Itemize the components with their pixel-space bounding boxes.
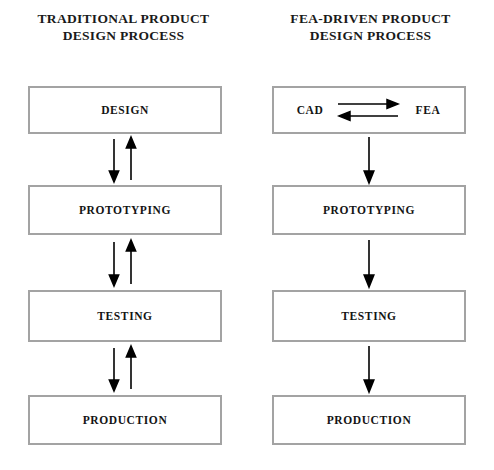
process-box-prototyping: PROTOTYPING [272, 185, 466, 235]
process-box-design: DESIGN [28, 86, 222, 134]
process-box-production: PRODUCTION [28, 395, 222, 445]
arrow-up-head [126, 137, 135, 148]
arrow-right-head [387, 100, 398, 109]
connector-prototyping-testing [247, 235, 494, 290]
connector-design-prototyping [0, 134, 247, 185]
cad-label: CAD [284, 104, 336, 116]
process-box-production: PRODUCTION [272, 395, 466, 445]
connector-cadfea-prototyping [247, 134, 494, 185]
connector-testing-production [247, 342, 494, 395]
cad-fea-row: CAD FEA [274, 88, 464, 132]
arrow-down-head [364, 171, 374, 183]
arrow-up-head [126, 240, 135, 251]
process-box-testing: TESTING [272, 290, 466, 342]
process-box-label: PRODUCTION [83, 414, 168, 426]
process-box-label: PROTOTYPING [323, 204, 415, 216]
arrow-left-head [339, 112, 350, 121]
arrow-up-head [126, 346, 135, 357]
column-fea-driven-process: FEA-DRIVEN PRODUCT DESIGN PROCESS CAD FE… [247, 0, 494, 470]
arrow-down-head [109, 380, 118, 391]
arrow-down-head [109, 275, 118, 286]
cad-fea-exchange-arrows [336, 97, 402, 123]
column-title-fea-driven: FEA-DRIVEN PRODUCT DESIGN PROCESS [247, 10, 494, 44]
connector-testing-production [0, 342, 247, 395]
process-box-label: DESIGN [101, 104, 149, 116]
process-box-label: PROTOTYPING [79, 204, 171, 216]
column-traditional-process: TRADITIONAL PRODUCT DESIGN PROCESS DESIG… [0, 0, 247, 470]
arrow-down-head [364, 275, 374, 287]
arrow-down-head [364, 380, 374, 392]
process-box-testing: TESTING [28, 290, 222, 342]
fea-label: FEA [402, 104, 454, 116]
flowchart-diagram: TRADITIONAL PRODUCT DESIGN PROCESS DESIG… [0, 0, 494, 470]
connector-prototyping-testing [0, 235, 247, 290]
process-box-label: TESTING [341, 310, 396, 322]
column-title-traditional: TRADITIONAL PRODUCT DESIGN PROCESS [0, 10, 247, 44]
process-box-label: PRODUCTION [327, 414, 412, 426]
process-box-cad-fea: CAD FEA [272, 86, 466, 134]
process-box-label: TESTING [97, 310, 152, 322]
process-box-prototyping: PROTOTYPING [28, 185, 222, 235]
arrow-down-head [109, 171, 118, 182]
